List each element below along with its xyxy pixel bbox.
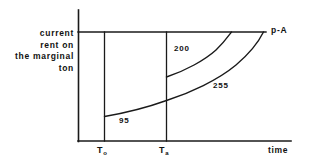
x-tick-label-t0: To (97, 145, 107, 155)
x-tick-t0-base: T (97, 145, 103, 155)
curve-label-255: 255 (213, 81, 229, 90)
curve-255 (167, 32, 264, 101)
x-axis-label: time (268, 145, 288, 155)
curve-200 (167, 32, 232, 77)
y-axis-label-line-4: ton (0, 63, 74, 75)
figure-canvas (0, 0, 309, 166)
x-tick-t0-subscript: o (103, 150, 107, 156)
x-tick-label-ta: Ta (159, 145, 168, 155)
y-axis-label-line-2: rent on (0, 40, 74, 52)
x-tick-ta-base: T (159, 145, 165, 155)
curve-95 (105, 101, 167, 117)
y-axis-label-line-3: the marginal (0, 51, 74, 63)
y-axis-label-line-1: current (0, 28, 74, 40)
curve-label-95: 95 (119, 116, 130, 125)
y-axis-label: current rent on the marginal ton (0, 28, 74, 74)
curve-label-200: 200 (174, 44, 190, 53)
x-tick-ta-subscript: a (165, 150, 169, 156)
pa-line-label: p-A (271, 25, 287, 35)
rent-marginal-ton-figure: current rent on the marginal ton 95 200 … (0, 0, 309, 166)
